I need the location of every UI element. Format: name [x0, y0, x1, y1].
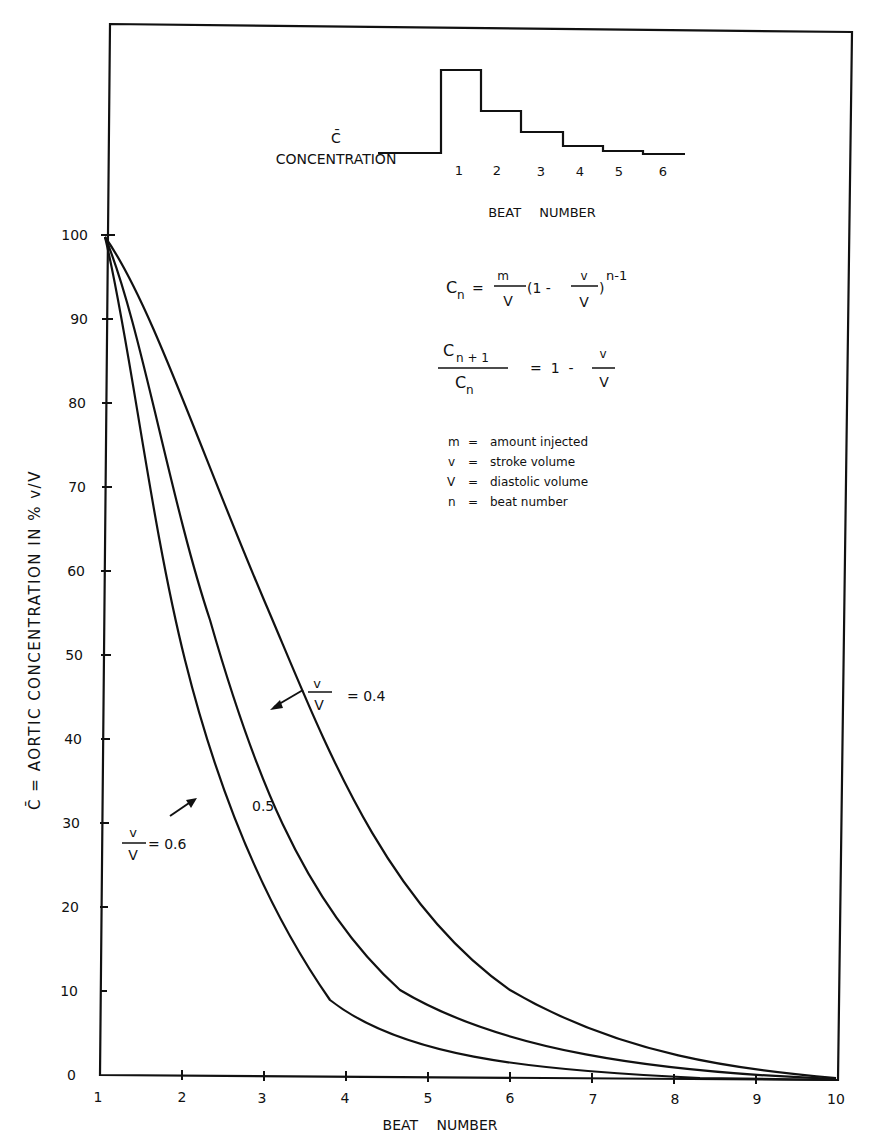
- svg-text:=: =: [472, 280, 484, 296]
- svg-text:3: 3: [537, 164, 545, 179]
- svg-text:C: C: [446, 278, 457, 297]
- svg-text:10: 10: [827, 1091, 845, 1107]
- svg-text:C: C: [455, 373, 466, 392]
- annotation-0-5: 0.5: [252, 798, 274, 814]
- svg-text:7: 7: [589, 1091, 598, 1107]
- svg-text:v: v: [313, 676, 321, 691]
- svg-text:n: n: [457, 288, 465, 302]
- svg-text:50: 50: [65, 647, 83, 663]
- svg-text:30: 30: [62, 815, 80, 831]
- svg-text:5: 5: [615, 164, 623, 179]
- svg-text:C: C: [443, 341, 454, 360]
- svg-text:=: =: [468, 475, 478, 489]
- equation-1: C n = m V (1 - v V ) n-1: [446, 268, 627, 310]
- svg-text:(1 -: (1 -: [527, 280, 551, 296]
- svg-text:60: 60: [67, 563, 85, 579]
- svg-text:n + 1: n + 1: [456, 351, 489, 365]
- svg-text:20: 20: [61, 899, 79, 915]
- svg-text:C̄: C̄: [331, 129, 341, 146]
- svg-text:5: 5: [424, 1090, 433, 1106]
- inset-step-chart: C̄ CONCENTRATION 1 2 3 4 5 6 BEAT NUMBER: [276, 70, 685, 220]
- svg-text:6: 6: [659, 164, 667, 179]
- svg-text:= 1 -: = 1 -: [530, 360, 574, 376]
- svg-text:n: n: [466, 383, 474, 397]
- svg-text:V: V: [579, 294, 589, 310]
- definitions: m = amount injected v = stroke volume V …: [447, 435, 588, 509]
- svg-text:2: 2: [493, 163, 501, 178]
- arrow-icon: [270, 700, 283, 710]
- svg-text:=: =: [468, 455, 478, 469]
- chart-canvas: 100 90 80 70 60 50 40 30 20 10 0 C̄ = AO…: [0, 0, 870, 1147]
- svg-text:1: 1: [455, 163, 463, 178]
- svg-text:V: V: [599, 374, 609, 390]
- svg-text:= 0.6: = 0.6: [148, 836, 187, 852]
- svg-text:= 0.4: = 0.4: [347, 688, 386, 704]
- annotation-0-6: v V = 0.6: [122, 798, 197, 863]
- svg-text:1: 1: [94, 1089, 103, 1105]
- svg-text:V: V: [314, 697, 324, 713]
- svg-text:V: V: [128, 847, 138, 863]
- svg-text:8: 8: [671, 1091, 680, 1107]
- svg-text:m: m: [497, 269, 509, 283]
- svg-text:amount injected: amount injected: [490, 435, 588, 449]
- svg-text:V: V: [503, 293, 513, 309]
- svg-text:BEAT NUMBER: BEAT NUMBER: [488, 205, 596, 220]
- svg-text:v: v: [599, 347, 606, 361]
- svg-text:diastolic volume: diastolic volume: [490, 475, 588, 489]
- x-tick-labels: 1 2 3 4 5 6 7 8 9 10: [94, 1089, 845, 1107]
- svg-text:2: 2: [178, 1089, 187, 1105]
- svg-text:): ): [599, 280, 604, 296]
- svg-text:10: 10: [60, 983, 78, 999]
- svg-text:70: 70: [68, 479, 86, 495]
- svg-text:4: 4: [341, 1090, 350, 1106]
- svg-text:9: 9: [753, 1091, 762, 1107]
- svg-text:V: V: [447, 475, 456, 489]
- svg-text:v: v: [448, 455, 455, 469]
- svg-text:v: v: [129, 825, 137, 840]
- svg-text:4: 4: [576, 164, 584, 179]
- svg-text:n: n: [448, 495, 456, 509]
- x-axis-label: BEAT NUMBER: [383, 1117, 498, 1133]
- plot-frame: [100, 24, 852, 1080]
- svg-text:90: 90: [70, 311, 88, 327]
- svg-text:3: 3: [258, 1090, 267, 1106]
- svg-text:40: 40: [64, 731, 82, 747]
- svg-text:stroke volume: stroke volume: [490, 455, 575, 469]
- svg-text:100: 100: [61, 227, 88, 243]
- svg-text:m: m: [448, 435, 460, 449]
- annotation-0-4: v V = 0.4: [270, 676, 386, 713]
- svg-text:80: 80: [68, 395, 86, 411]
- svg-text:n-1: n-1: [606, 268, 627, 283]
- svg-text:v: v: [580, 269, 587, 283]
- svg-text:6: 6: [506, 1090, 515, 1106]
- equation-2: C n + 1 C n = 1 - v V: [438, 341, 615, 397]
- svg-text:=: =: [468, 435, 478, 449]
- y-tick-labels: 100 90 80 70 60 50 40 30 20 10 0: [60, 227, 88, 1083]
- y-axis-label: C̄ = AORTIC CONCENTRATION IN % v/V: [25, 470, 44, 810]
- svg-text:beat number: beat number: [490, 495, 568, 509]
- svg-text:=: =: [468, 495, 478, 509]
- svg-text:0: 0: [67, 1067, 76, 1083]
